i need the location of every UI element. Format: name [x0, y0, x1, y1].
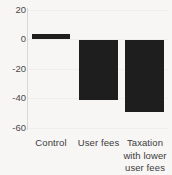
y-tick-label-neg20: -20 — [0, 64, 26, 74]
x-label-user-fees: User fees — [72, 137, 125, 150]
gridline-neg60 — [28, 128, 168, 129]
y-tick-label-20: 20 — [0, 5, 26, 15]
gridline-20 — [28, 10, 168, 11]
bar-taxation-with-lower-user-fees — [125, 40, 164, 112]
y-tick-label-neg60: -60 — [0, 123, 26, 133]
bar-user-fees — [79, 40, 118, 101]
x-label-taxation: Taxationwith loweruser fees — [119, 137, 171, 175]
y-tick-label-0: 0 — [0, 34, 26, 44]
bar-control — [32, 34, 70, 40]
bar-chart: 20 0 -20 -40 -60 Control User fees Taxat… — [0, 0, 172, 175]
y-axis-line — [27, 8, 28, 130]
y-tick-label-neg40: -40 — [0, 93, 26, 103]
x-label-control: Control — [25, 137, 77, 150]
